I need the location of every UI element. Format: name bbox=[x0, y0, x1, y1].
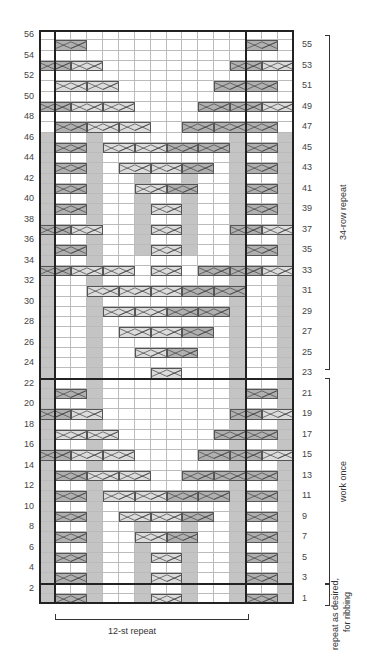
cable-cross-symbol bbox=[262, 102, 294, 112]
purl-cell bbox=[39, 379, 55, 389]
knit-cell bbox=[55, 327, 71, 337]
knit-cell bbox=[55, 194, 71, 204]
knit-cell bbox=[198, 584, 214, 594]
knit-cell bbox=[103, 235, 119, 245]
purl-cell bbox=[278, 563, 294, 573]
cable-cross-symbol bbox=[119, 327, 151, 337]
knit-cell bbox=[151, 153, 167, 163]
knit-cell bbox=[103, 594, 119, 604]
purl-cell bbox=[230, 204, 246, 214]
knit-cell bbox=[135, 440, 151, 450]
purl-cell bbox=[230, 297, 246, 307]
knit-cell bbox=[151, 502, 167, 512]
purl-cell bbox=[135, 194, 151, 204]
purl-cell bbox=[278, 184, 294, 194]
knit-cell bbox=[167, 71, 183, 81]
knit-cell bbox=[214, 71, 230, 81]
row-number-label: 24 bbox=[14, 357, 34, 367]
knit-cell bbox=[119, 420, 135, 430]
knit-cell bbox=[151, 215, 167, 225]
knit-cell bbox=[198, 379, 214, 389]
cable-cross-symbol bbox=[214, 430, 246, 440]
cable-cross-symbol bbox=[246, 512, 278, 522]
cable-cross-symbol bbox=[55, 553, 87, 563]
knit-cell bbox=[151, 481, 167, 491]
knit-cell bbox=[167, 235, 183, 245]
cable-cross-symbol bbox=[182, 122, 214, 132]
purl-cell bbox=[230, 491, 246, 501]
row-number-label: 44 bbox=[14, 152, 34, 162]
knit-cell bbox=[214, 512, 230, 522]
knit-cell bbox=[135, 102, 151, 112]
purl-cell bbox=[87, 317, 103, 327]
purl-cell bbox=[230, 348, 246, 358]
knit-cell bbox=[214, 51, 230, 61]
purl-cell bbox=[39, 297, 55, 307]
purl-cell bbox=[182, 215, 198, 225]
purl-cell bbox=[182, 204, 198, 214]
knit-cell bbox=[182, 430, 198, 440]
purl-cell bbox=[87, 194, 103, 204]
knit-cell bbox=[103, 327, 119, 337]
knit-cell bbox=[246, 307, 262, 317]
knit-cell bbox=[182, 81, 198, 91]
row-number-label: 20 bbox=[14, 398, 34, 408]
knit-cell bbox=[103, 184, 119, 194]
knit-cell bbox=[119, 40, 135, 50]
cable-cross-symbol bbox=[182, 471, 214, 481]
knit-cell bbox=[167, 276, 183, 286]
knit-cell bbox=[182, 338, 198, 348]
knit-cell bbox=[119, 348, 135, 358]
knit-cell bbox=[151, 276, 167, 286]
knit-cell bbox=[167, 317, 183, 327]
purl-cell bbox=[87, 553, 103, 563]
knit-cell bbox=[167, 174, 183, 184]
knit-cell bbox=[262, 286, 278, 296]
purl-cell bbox=[230, 563, 246, 573]
knit-cell bbox=[182, 450, 198, 460]
cable-cross-symbol bbox=[71, 450, 103, 460]
knit-cell bbox=[103, 276, 119, 286]
knit-cell bbox=[39, 81, 55, 91]
row-number-label: 5 bbox=[302, 552, 322, 562]
purl-cell bbox=[230, 245, 246, 255]
row-number-label: 48 bbox=[14, 111, 34, 121]
knit-cell bbox=[214, 30, 230, 40]
knit-cell bbox=[182, 420, 198, 430]
purl-cell bbox=[135, 563, 151, 573]
purl-cell bbox=[87, 245, 103, 255]
purl-cell bbox=[278, 163, 294, 173]
knit-cell bbox=[198, 461, 214, 471]
cable-cross-symbol bbox=[55, 184, 87, 194]
cable-cross-symbol bbox=[55, 471, 87, 481]
purl-cell bbox=[278, 440, 294, 450]
cable-cross-symbol bbox=[87, 122, 119, 132]
cable-cross-symbol bbox=[246, 40, 278, 50]
purl-cell bbox=[230, 543, 246, 553]
knit-cell bbox=[182, 256, 198, 266]
row-number-label: 47 bbox=[302, 121, 322, 131]
purl-cell bbox=[230, 153, 246, 163]
knit-cell bbox=[119, 81, 135, 91]
cable-cross-symbol bbox=[103, 143, 135, 153]
knit-cell bbox=[71, 133, 87, 143]
knit-cell bbox=[119, 204, 135, 214]
purl-cell bbox=[278, 379, 294, 389]
knit-cell bbox=[167, 112, 183, 122]
purl-cell bbox=[278, 399, 294, 409]
purl-cell bbox=[278, 235, 294, 245]
purl-cell bbox=[230, 553, 246, 563]
knit-cell bbox=[167, 379, 183, 389]
knit-cell bbox=[198, 112, 214, 122]
knit-cell bbox=[71, 307, 87, 317]
knit-cell bbox=[55, 358, 71, 368]
knit-cell bbox=[214, 379, 230, 389]
knit-cell bbox=[214, 563, 230, 573]
knit-cell bbox=[39, 40, 55, 50]
knit-cell bbox=[103, 71, 119, 81]
knit-cell bbox=[103, 256, 119, 266]
purl-cell bbox=[87, 153, 103, 163]
purl-cell bbox=[39, 338, 55, 348]
purl-cell bbox=[278, 358, 294, 368]
knit-cell bbox=[198, 81, 214, 91]
